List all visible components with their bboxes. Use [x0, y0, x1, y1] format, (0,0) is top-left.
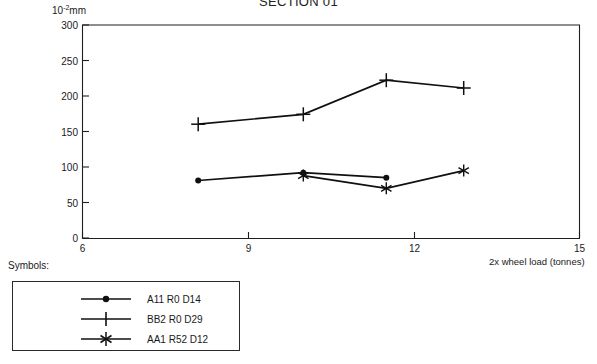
- series-aa1-r52-d12: [298, 165, 469, 195]
- y-tick-label-100: 100: [44, 162, 78, 173]
- x-tick-label-15: 15: [568, 243, 592, 254]
- series-bb2-r0-d29: [191, 73, 471, 131]
- legend-label: BB2 R0 D29: [147, 314, 203, 325]
- legend-label: A11 R0 D14: [147, 294, 201, 305]
- series-aa1-line: [303, 171, 463, 189]
- series-bb2-line: [198, 80, 464, 124]
- circle-marker: [383, 175, 389, 181]
- y-tick-label-250: 250: [44, 56, 78, 67]
- y-tick-label-50: 50: [44, 198, 78, 209]
- legend-item-a11-r0-d14[interactable]: A11 R0 D14: [13, 288, 241, 310]
- circle-marker: [75, 288, 137, 310]
- legend-item-aa1-r52-d12[interactable]: AA1 R52 D12: [13, 328, 241, 350]
- y-tick-label-150: 150: [44, 127, 78, 138]
- y-axis-ticks: [82, 25, 89, 238]
- x-axis-ticks: [83, 232, 580, 238]
- x-tick-label-6: 6: [71, 243, 95, 254]
- axis-frame: [82, 25, 580, 239]
- x-tick-label-9: 9: [237, 243, 261, 254]
- series-a11-line: [198, 173, 386, 181]
- legend-label: AA1 R52 D12: [147, 334, 208, 345]
- y-tick-label-300: 300: [44, 20, 78, 31]
- x-tick-label-12: 12: [403, 243, 427, 254]
- series-a11-r0-d14: [195, 170, 389, 184]
- asterisk-marker: [75, 328, 137, 350]
- circle-marker: [195, 178, 201, 184]
- plus-marker: [75, 308, 137, 330]
- legend-caption: Symbols:: [8, 261, 49, 271]
- y-tick-label-200: 200: [44, 91, 78, 102]
- legend-box: A11 R0 D14 BB2 R0 D29 AA1 R52 D12: [12, 281, 240, 351]
- legend-item-bb2-r0-d29[interactable]: BB2 R0 D29: [13, 308, 241, 330]
